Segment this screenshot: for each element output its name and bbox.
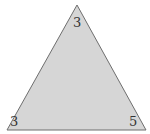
diagram-canvas: 3 3 5 xyxy=(0,0,150,134)
top-corner-label: 3 xyxy=(73,15,81,30)
bottom-right-corner-label: 5 xyxy=(129,114,137,129)
bottom-left-corner-label: 3 xyxy=(10,114,18,129)
triangle-diagram: 3 3 5 xyxy=(0,0,150,134)
